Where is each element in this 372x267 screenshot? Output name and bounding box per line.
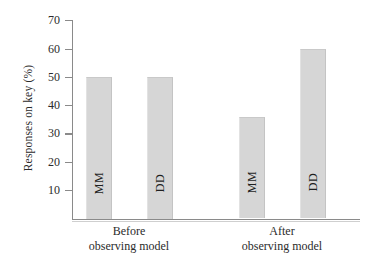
- x-group-label-after: After observing model: [222, 224, 342, 253]
- x-group-label-before-line1: Before: [69, 224, 189, 239]
- x-axis-shadow: [72, 221, 360, 222]
- bar-label-after-dd: DD: [307, 173, 319, 191]
- x-group-label-after-line2: observing model: [222, 239, 342, 254]
- y-axis-line: [72, 20, 73, 219]
- y-tick-60: [65, 49, 72, 50]
- bar-chart-figure: Responses on key (%) 10 20 30 40 50 60 7…: [0, 0, 372, 267]
- y-tick-label-20: 20: [20, 156, 60, 168]
- x-group-label-before-line2: observing model: [69, 239, 189, 254]
- y-tick-label-60: 60: [20, 43, 60, 55]
- bar-before-dd: DD: [147, 77, 173, 219]
- y-tick-30: [65, 133, 72, 134]
- y-tick-10: [65, 190, 72, 191]
- y-tick-label-30: 30: [20, 127, 60, 139]
- y-tick-label-40: 40: [20, 99, 60, 111]
- y-tick-50: [65, 77, 72, 78]
- y-tick-20: [65, 162, 72, 163]
- y-tick-label-70: 70: [20, 14, 60, 26]
- bar-after-mm: MM: [239, 117, 265, 219]
- y-tick-70: [65, 20, 72, 21]
- y-tick-label-50: 50: [20, 71, 60, 83]
- bar-label-after-mm: MM: [246, 171, 258, 193]
- bar-label-before-mm: MM: [93, 171, 105, 193]
- bar-label-before-dd: DD: [154, 173, 166, 191]
- bar-after-dd: DD: [300, 49, 326, 219]
- x-group-label-before: Before observing model: [69, 224, 189, 253]
- x-group-label-after-line1: After: [222, 224, 342, 239]
- bar-before-mm: MM: [86, 77, 112, 219]
- y-tick-40: [65, 105, 72, 106]
- y-tick-label-10: 10: [20, 184, 60, 196]
